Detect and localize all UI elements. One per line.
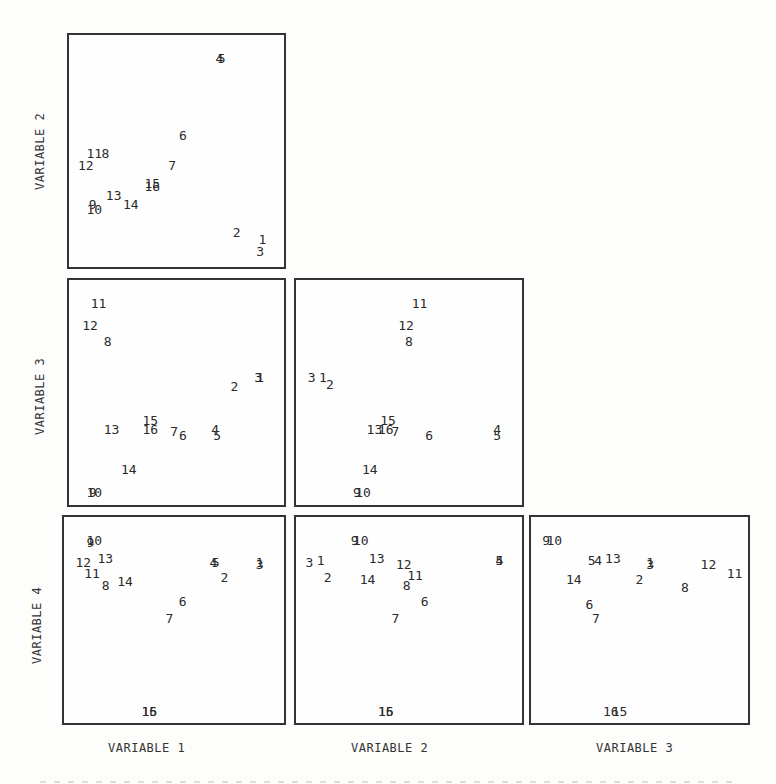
panel-var3-vs-var4: 12345678910111213141516 [529, 515, 750, 725]
point-label: 5 [588, 554, 596, 567]
point-label: 8 [102, 579, 110, 592]
point-label: 3 [306, 556, 314, 569]
point-label: 16 [145, 180, 161, 193]
point-label: 12 [701, 558, 717, 571]
point-label: 10 [87, 486, 103, 499]
point-label: 12 [398, 319, 414, 332]
point-label: 13 [605, 552, 621, 565]
point-label: 16 [378, 423, 394, 436]
point-label: 2 [326, 378, 334, 391]
point-label: 6 [586, 598, 594, 611]
point-label: 1 [317, 554, 325, 567]
point-label: 16 [141, 705, 157, 718]
point-label: 13 [106, 189, 122, 202]
point-label: 16 [378, 705, 394, 718]
point-label: 12 [78, 159, 94, 172]
point-label: 14 [123, 198, 139, 211]
point-label: 12 [82, 319, 98, 332]
point-label: 2 [636, 573, 644, 586]
point-label: 7 [592, 612, 600, 625]
point-label: 6 [179, 595, 187, 608]
panel-var2-vs-var4: 12345678910111213141516 [294, 515, 524, 725]
point-label: 5 [493, 429, 501, 442]
point-label: 5 [213, 429, 221, 442]
point-label: 10 [87, 203, 103, 216]
point-label: 5 [212, 556, 220, 569]
point-label: 8 [681, 581, 689, 594]
point-label: 6 [425, 429, 433, 442]
point-label: 11 [91, 297, 107, 310]
point-label: 6 [179, 429, 187, 442]
x-axis-label-variable-3: VARIABLE 3 [596, 741, 673, 755]
panel-var1-vs-var2: 12345678910111213141516 [67, 33, 286, 269]
point-label: 2 [233, 226, 241, 239]
panel-var1-vs-var3: 12345678910111213141516 [67, 278, 286, 507]
point-label: 10 [353, 534, 369, 547]
point-label: 8 [405, 335, 413, 348]
point-label: 7 [166, 612, 174, 625]
point-label: 12 [396, 558, 412, 571]
y-axis-label-variable-2: VARIABLE 2 [33, 100, 47, 190]
point-label: 3 [308, 371, 316, 384]
point-label: 16 [142, 423, 158, 436]
y-axis-label-variable-4: VARIABLE 4 [30, 574, 44, 664]
point-label: 12 [75, 556, 91, 569]
point-label: 7 [391, 612, 399, 625]
point-label: 14 [117, 575, 133, 588]
panel-var1-vs-var4: 12345678910111213141516 [62, 515, 286, 725]
point-label: 11 [412, 297, 428, 310]
point-label: 3 [254, 371, 262, 384]
point-label: 14 [362, 463, 378, 476]
point-label: 10 [547, 534, 563, 547]
point-label: 13 [369, 552, 385, 565]
x-axis-label-variable-2: VARIABLE 2 [351, 741, 428, 755]
point-label: 7 [168, 159, 176, 172]
point-label: 11 [727, 567, 743, 580]
x-axis-label-variable-1: VARIABLE 1 [108, 741, 185, 755]
point-label: 3 [256, 558, 264, 571]
point-label: 14 [566, 573, 582, 586]
point-label: 8 [104, 335, 112, 348]
point-label: 6 [421, 595, 429, 608]
point-label: 13 [97, 552, 113, 565]
point-label: 10 [355, 486, 371, 499]
point-label: 3 [256, 245, 264, 258]
point-label: 5 [495, 554, 503, 567]
point-label: 10 [86, 534, 102, 547]
point-label: 8 [102, 147, 110, 160]
clipped-caption [40, 776, 740, 784]
point-label: 2 [221, 571, 229, 584]
point-label: 6 [179, 129, 187, 142]
point-label: 5 [218, 52, 226, 65]
point-label: 14 [360, 573, 376, 586]
point-label: 7 [170, 425, 178, 438]
panel-var2-vs-var3: 12345678910111213141516 [294, 278, 524, 507]
y-axis-label-variable-3: VARIABLE 3 [33, 345, 47, 435]
point-label: 2 [231, 380, 239, 393]
point-label: 3 [646, 558, 654, 571]
point-label: 2 [324, 571, 332, 584]
point-label: 16 [603, 705, 619, 718]
point-label: 13 [104, 423, 120, 436]
point-label: 14 [121, 463, 137, 476]
